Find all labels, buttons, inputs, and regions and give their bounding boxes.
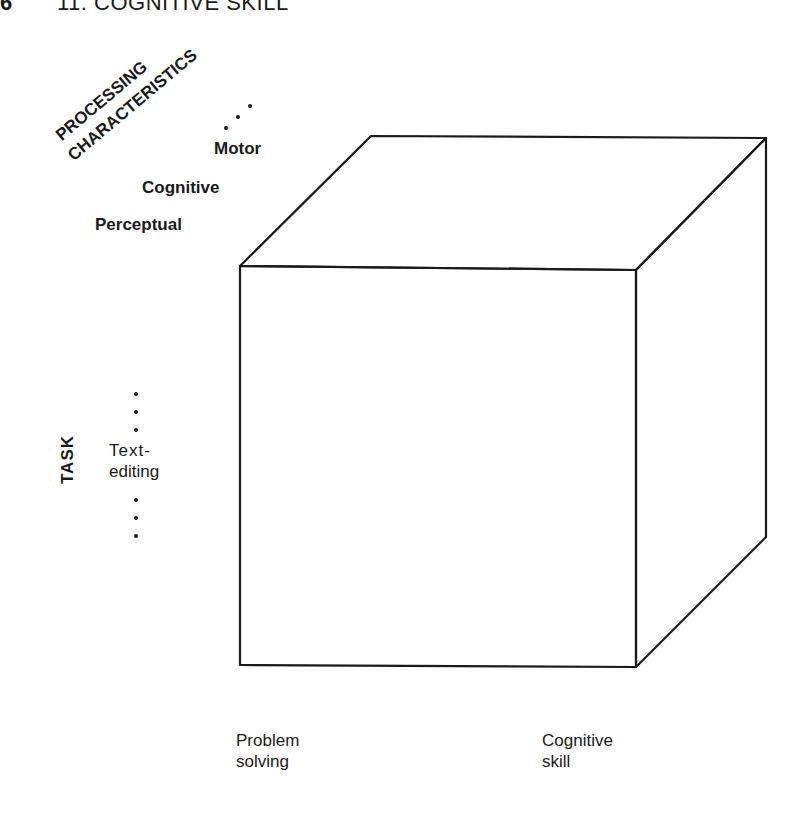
cube-top-face [240,136,766,270]
label-text-editing-line1: Text- [109,441,151,461]
label-cognitive: Cognitive [142,178,219,198]
continuation-dot [236,115,240,119]
continuation-dot [224,126,228,130]
continuation-dot [134,534,138,538]
label-problem-solving-line1: Problem [236,731,299,751]
continuation-dot [248,104,252,108]
label-problem-solving-line2: solving [236,752,289,772]
label-perceptual: Perceptual [95,215,182,235]
label-motor: Motor [214,139,261,159]
continuation-dot [134,516,138,520]
continuation-dot [134,428,138,432]
cube-front-face [240,266,636,667]
label-cognitive-skill-line1: Cognitive [542,731,613,751]
continuation-dot [134,498,138,502]
cube-right-face [636,138,766,667]
continuation-dot [134,410,138,414]
axis-title-task: TASK [58,435,78,484]
label-text-editing-line2: editing [109,462,159,482]
continuation-dot [134,392,138,396]
label-cognitive-skill-line2: skill [542,752,570,772]
